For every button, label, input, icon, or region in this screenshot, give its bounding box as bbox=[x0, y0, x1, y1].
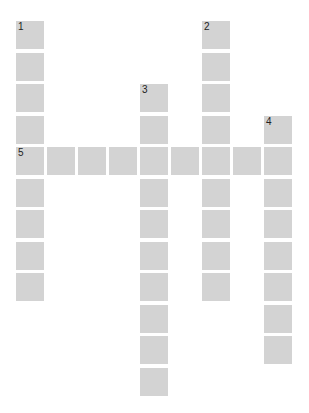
crossword-cell[interactable] bbox=[47, 147, 75, 175]
crossword-cell[interactable] bbox=[202, 210, 230, 238]
crossword-cell[interactable] bbox=[109, 147, 137, 175]
crossword-cell[interactable] bbox=[78, 147, 106, 175]
crossword-cell[interactable]: 2 bbox=[202, 21, 230, 49]
crossword-cell[interactable] bbox=[264, 336, 292, 364]
crossword-cell[interactable]: 5 bbox=[16, 147, 44, 175]
crossword-cell[interactable] bbox=[140, 336, 168, 364]
crossword-cell[interactable] bbox=[16, 116, 44, 144]
crossword-cell[interactable] bbox=[202, 116, 230, 144]
crossword-cell[interactable] bbox=[202, 84, 230, 112]
clue-number: 5 bbox=[18, 148, 24, 158]
crossword-cell[interactable] bbox=[202, 53, 230, 81]
crossword-cell[interactable] bbox=[16, 242, 44, 270]
clue-number: 4 bbox=[266, 117, 272, 127]
crossword-cell[interactable] bbox=[202, 273, 230, 301]
crossword-cell[interactable] bbox=[264, 210, 292, 238]
crossword-cell[interactable] bbox=[264, 147, 292, 175]
crossword-cell[interactable] bbox=[16, 273, 44, 301]
crossword-cell[interactable] bbox=[140, 210, 168, 238]
crossword-cell[interactable] bbox=[202, 179, 230, 207]
clue-number: 3 bbox=[142, 85, 148, 95]
crossword-cell[interactable] bbox=[140, 368, 168, 396]
clue-number: 2 bbox=[204, 22, 210, 32]
crossword-cell[interactable] bbox=[140, 242, 168, 270]
crossword-cell[interactable] bbox=[202, 242, 230, 270]
crossword-cell[interactable] bbox=[16, 84, 44, 112]
crossword-cell[interactable] bbox=[140, 116, 168, 144]
crossword-cell[interactable] bbox=[140, 273, 168, 301]
crossword-cell[interactable]: 4 bbox=[264, 116, 292, 144]
crossword-cell[interactable] bbox=[140, 147, 168, 175]
crossword-cell[interactable] bbox=[140, 179, 168, 207]
crossword-cell[interactable] bbox=[171, 147, 199, 175]
clue-number: 1 bbox=[18, 22, 24, 32]
crossword-cell[interactable]: 1 bbox=[16, 21, 44, 49]
crossword-grid: 15234 bbox=[0, 0, 309, 413]
crossword-cell[interactable] bbox=[233, 147, 261, 175]
crossword-cell[interactable] bbox=[202, 147, 230, 175]
crossword-cell[interactable] bbox=[16, 210, 44, 238]
crossword-cell[interactable] bbox=[16, 53, 44, 81]
crossword-cell[interactable] bbox=[140, 305, 168, 333]
crossword-cell[interactable] bbox=[264, 242, 292, 270]
crossword-cell[interactable] bbox=[264, 179, 292, 207]
crossword-cell[interactable] bbox=[264, 273, 292, 301]
crossword-cell[interactable]: 3 bbox=[140, 84, 168, 112]
crossword-cell[interactable] bbox=[264, 305, 292, 333]
crossword-cell[interactable] bbox=[16, 179, 44, 207]
